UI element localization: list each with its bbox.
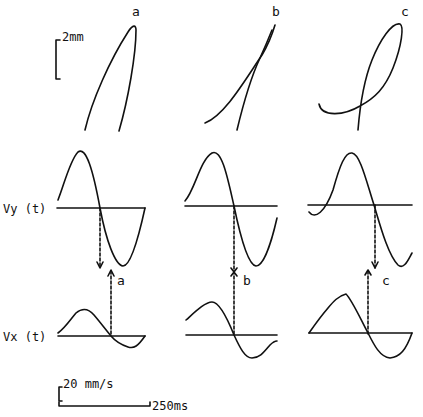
vx-plot-a <box>58 309 145 347</box>
vy-label: Vy (t) <box>3 202 46 216</box>
svg-text:250ms: 250ms <box>152 399 188 413</box>
svg-text:c: c <box>401 4 409 19</box>
svg-text:a: a <box>132 4 140 19</box>
svg-text:a: a <box>117 273 125 288</box>
trajectory-c: c <box>319 4 409 130</box>
vy-row: Vy (t) a b c <box>3 151 412 336</box>
svg-text:b: b <box>243 273 251 288</box>
svg-text:c: c <box>382 273 390 288</box>
svg-text:b: b <box>272 4 280 19</box>
vx-label: Vx (t) <box>3 330 46 344</box>
trajectory-row: 2mm a b c <box>56 4 409 131</box>
vx-plot-c <box>309 294 412 358</box>
vx-plot-b <box>186 302 277 358</box>
vx-row: Vx (t) <box>3 294 412 358</box>
figure: 2mm a b c Vy (t) a <box>0 0 423 417</box>
vy-plot-c: c <box>308 153 412 336</box>
position-scale-bar: 2mm <box>56 30 84 79</box>
trajectory-a: a <box>85 4 140 131</box>
svg-text:20 mm/s: 20 mm/s <box>63 377 114 391</box>
velocity-time-scale-bar: 20 mm/s 250ms <box>59 377 188 413</box>
trajectory-b: b <box>205 4 280 130</box>
vy-plot-a: a <box>57 151 145 336</box>
svg-text:2mm: 2mm <box>62 30 84 44</box>
